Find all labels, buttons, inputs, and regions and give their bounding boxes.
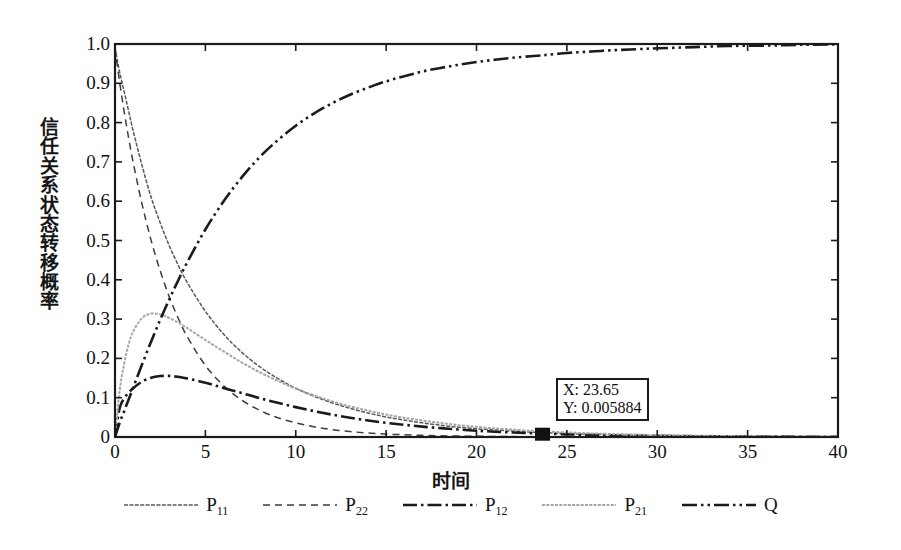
legend-line-sample <box>262 498 338 512</box>
series-line-p21 <box>115 313 838 437</box>
legend-label-subscript: 22 <box>356 504 368 518</box>
legend-entry-p22[interactable]: P22 <box>262 494 368 516</box>
series-line-p11 <box>115 48 838 437</box>
chart-legend: P11P22P12P21Q <box>0 494 901 516</box>
legend-line-sample <box>123 498 199 512</box>
series-line-p22 <box>115 48 838 437</box>
plot-area <box>0 0 901 550</box>
chart-figure: 信任关系状态转移概率 00.10.20.30.40.50.60.70.80.91… <box>0 0 901 550</box>
series-line-p12 <box>115 376 838 437</box>
legend-label-subscript: 12 <box>495 504 507 518</box>
legend-line-sample <box>541 498 617 512</box>
legend-label-subscript: 11 <box>217 504 229 518</box>
legend-label: Q <box>764 494 778 516</box>
legend-line-sample <box>402 498 478 512</box>
legend-entry-p11[interactable]: P11 <box>123 494 228 516</box>
series-line-q <box>115 44 838 437</box>
datatip-x-value: X: 23.65 <box>563 381 642 399</box>
datatip-y-value: Y: 0.005884 <box>563 399 642 417</box>
data-curves <box>115 44 838 437</box>
legend-label: P12 <box>485 494 508 516</box>
legend-label-subscript: 21 <box>635 504 647 518</box>
axes-frame <box>115 44 838 437</box>
legend-label: P22 <box>345 494 368 516</box>
legend-line-sample <box>681 498 757 512</box>
legend-entry-p21[interactable]: P21 <box>541 494 647 516</box>
legend-entry-p12[interactable]: P12 <box>402 494 508 516</box>
legend-label: P11 <box>206 494 228 516</box>
legend-entry-q[interactable]: Q <box>681 494 778 516</box>
axis-ticks <box>115 44 838 437</box>
data-cursor-marker[interactable] <box>535 428 550 441</box>
legend-label: P21 <box>624 494 647 516</box>
data-cursor-tooltip[interactable]: X: 23.65 Y: 0.005884 <box>556 378 649 421</box>
